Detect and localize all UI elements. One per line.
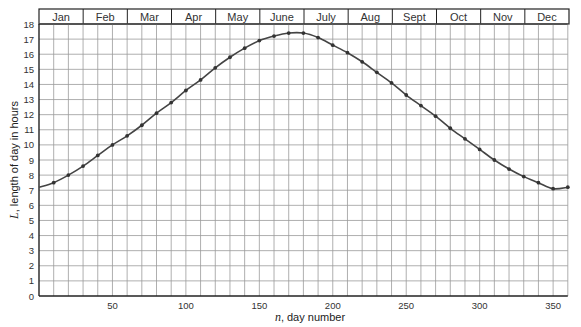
data-point [199, 78, 203, 82]
y-tick-label: 17 [23, 34, 34, 45]
data-point [140, 123, 144, 127]
data-point [66, 173, 70, 177]
month-label: May [227, 11, 248, 23]
data-point [302, 31, 306, 35]
month-label: Feb [96, 11, 115, 23]
data-point-markers [52, 31, 570, 190]
y-tick-label: 16 [23, 49, 34, 60]
data-point [81, 164, 85, 168]
data-point [522, 175, 526, 179]
y-tick-label: 8 [29, 170, 34, 181]
data-point [213, 66, 217, 70]
data-point [463, 137, 467, 141]
y-tick-label: 11 [24, 124, 34, 135]
data-point [316, 36, 320, 40]
y-tick-label: 12 [23, 109, 34, 120]
y-tick-label: 1 [29, 275, 34, 286]
y-axis-title: L, length of day in hours [7, 101, 21, 220]
y-tick-label: 18 [23, 19, 34, 30]
x-tick-label: 150 [251, 300, 267, 311]
month-label: Mar [140, 11, 159, 23]
data-point [375, 70, 379, 74]
data-point [272, 34, 276, 38]
data-point [169, 101, 173, 105]
y-tick-label: 9 [29, 155, 34, 166]
chart-grid [39, 24, 568, 296]
month-label: Jan [52, 11, 70, 23]
month-label: Sept [403, 11, 426, 23]
y-tick-label: 10 [23, 139, 34, 150]
y-tick-label: 3 [29, 245, 34, 256]
x-tick-label: 100 [178, 300, 194, 311]
data-point [228, 55, 232, 59]
y-axis-ticks: 0123456789101112131415161718 [23, 19, 34, 302]
data-point [287, 31, 291, 35]
data-point [537, 181, 541, 185]
data-point [419, 104, 423, 108]
data-point [390, 81, 394, 85]
data-point [155, 111, 159, 115]
data-point [125, 134, 129, 138]
y-tick-label: 14 [23, 79, 34, 90]
y-tick-label: 6 [29, 200, 34, 211]
data-point [331, 43, 335, 47]
data-point [96, 154, 100, 158]
x-axis-title: n, day number [275, 310, 346, 324]
y-axis-title-text: , length of day in hours [8, 101, 20, 213]
y-tick-label: 15 [23, 64, 34, 75]
y-tick-label: 0 [29, 291, 34, 302]
data-point [111, 143, 115, 147]
data-point [507, 167, 511, 171]
data-point [346, 51, 350, 55]
y-tick-label: 4 [29, 230, 34, 241]
data-point [448, 126, 452, 130]
month-label: Dec [537, 11, 557, 23]
y-tick-label: 7 [29, 185, 34, 196]
data-point [492, 158, 496, 162]
x-axis-ticks: 50100150200250300350 [107, 300, 561, 311]
data-point [52, 181, 56, 185]
y-tick-label: 2 [29, 260, 34, 271]
x-tick-label: 300 [472, 300, 488, 311]
day-length-chart: JanFebMarAprMayJuneJulyAugSeptOctNovDec … [0, 0, 581, 327]
month-label: Nov [493, 11, 513, 23]
data-point [434, 114, 438, 118]
month-label: Apr [185, 11, 202, 23]
month-header: JanFebMarAprMayJuneJulyAugSeptOctNovDec [39, 9, 569, 24]
x-axis-title-text: , day number [281, 311, 346, 323]
data-point [257, 39, 261, 43]
data-point [184, 89, 188, 93]
data-point [404, 93, 408, 97]
month-label: Aug [360, 11, 380, 23]
data-point [360, 60, 364, 64]
month-label: July [316, 11, 336, 23]
x-tick-label: 350 [545, 300, 561, 311]
month-label: June [270, 11, 294, 23]
month-label: Oct [450, 11, 467, 23]
data-point [478, 148, 482, 152]
y-tick-label: 5 [29, 215, 34, 226]
data-point [551, 187, 555, 191]
y-tick-label: 13 [23, 94, 34, 105]
x-tick-label: 50 [107, 300, 118, 311]
data-point [243, 46, 247, 50]
data-point [566, 185, 570, 189]
x-tick-label: 250 [398, 300, 414, 311]
x-tick-label: 200 [325, 300, 341, 311]
